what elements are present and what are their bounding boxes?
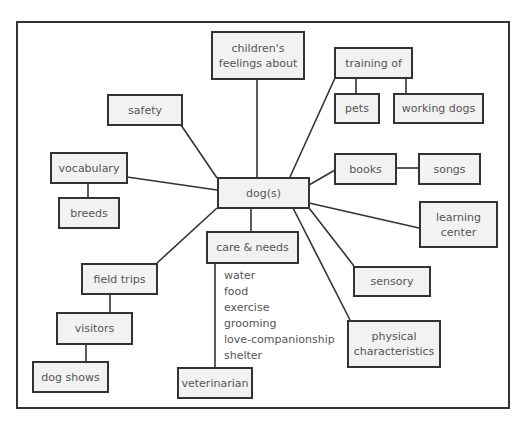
node-sensory: sensory — [353, 266, 431, 297]
node-label: training of — [345, 56, 402, 71]
node-dogs-center: dog(s) — [217, 177, 310, 209]
node-care-needs: care & needs — [206, 231, 299, 264]
node-label: children's — [232, 41, 285, 56]
care-needs-list: water food exercise grooming love-compan… — [224, 268, 335, 364]
node-learning-center: learning center — [419, 201, 498, 248]
node-label: pets — [345, 101, 369, 116]
node-vocabulary: vocabulary — [50, 152, 128, 184]
node-label: feelings about — [219, 56, 297, 71]
node-working-dogs: working dogs — [393, 93, 484, 124]
node-label: characteristics — [354, 344, 435, 359]
node-label: veterinarian — [182, 376, 249, 391]
node-label: visitors — [75, 321, 115, 336]
care-item: exercise — [224, 300, 335, 316]
node-dog-shows: dog shows — [32, 361, 109, 393]
node-physical-characteristics: physical characteristics — [347, 320, 441, 368]
node-veterinarian: veterinarian — [177, 367, 253, 399]
node-songs: songs — [418, 153, 481, 185]
care-item: grooming — [224, 316, 335, 332]
node-visitors: visitors — [56, 312, 133, 345]
node-books: books — [334, 153, 397, 185]
node-training-of: training of — [334, 47, 413, 79]
care-item: water — [224, 268, 335, 284]
node-pets: pets — [334, 93, 380, 124]
node-label: center — [441, 225, 476, 240]
node-label: field trips — [94, 272, 146, 287]
node-label: sensory — [371, 274, 414, 289]
node-label: learning — [436, 210, 481, 225]
node-label: physical — [371, 329, 416, 344]
node-label: vocabulary — [59, 161, 120, 176]
node-label: songs — [433, 162, 465, 177]
node-breeds: breeds — [58, 197, 120, 229]
node-label: dog shows — [41, 370, 99, 385]
node-label: books — [349, 162, 382, 177]
care-item: shelter — [224, 348, 335, 364]
care-item: food — [224, 284, 335, 300]
node-label: working dogs — [402, 101, 476, 116]
node-label: care & needs — [216, 240, 289, 255]
node-safety: safety — [107, 94, 183, 126]
node-field-trips: field trips — [81, 263, 158, 295]
care-item: love-companionship — [224, 332, 335, 348]
node-label: safety — [128, 103, 162, 118]
node-label: dog(s) — [246, 186, 281, 201]
node-childrens-feelings: children's feelings about — [211, 31, 305, 80]
node-label: breeds — [70, 206, 108, 221]
